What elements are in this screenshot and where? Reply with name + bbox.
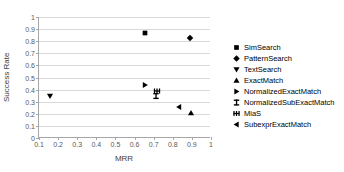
x-axis-tick-label: 0.6 <box>130 141 140 148</box>
legend-label: NormalizedExactMatch <box>244 87 321 96</box>
y-axis-tick-mark <box>36 65 39 66</box>
legend-marker-icon <box>232 98 241 107</box>
legend-marker-icon <box>232 87 241 96</box>
legend-label: PatternSearch <box>244 54 292 63</box>
x-axis-tick-mark <box>135 137 136 140</box>
y-axis-tick-mark <box>36 114 39 115</box>
y-axis-tick-label: 1 <box>31 14 35 21</box>
data-point <box>141 81 150 90</box>
x-axis-tick-mark <box>58 137 59 140</box>
y-axis-tick-label: 0.4 <box>25 86 35 93</box>
data-point <box>186 108 195 117</box>
y-axis-tick-mark <box>36 53 39 54</box>
legend-label: NormalizedSubExactMatch <box>244 98 334 107</box>
x-axis-tick-mark <box>173 137 174 140</box>
legend-item: TextSearch <box>232 64 342 75</box>
plot-area: 00.10.20.30.40.50.60.70.80.910.10.20.30.… <box>38 17 210 138</box>
gridline-horizontal <box>39 126 210 127</box>
y-axis-tick-label: 0.5 <box>25 74 35 81</box>
legend-item: ExactMatch <box>232 75 342 86</box>
chart-legend: SimSearchPatternSearchTextSearchExactMat… <box>232 42 342 130</box>
x-axis-tick-label: 0.1 <box>34 141 44 148</box>
legend-item: SubexprExactMatch <box>232 119 342 130</box>
x-axis-tick-label: 0.7 <box>149 141 159 148</box>
y-axis-tick-mark <box>36 90 39 91</box>
x-axis-tick-label: 0.9 <box>187 141 197 148</box>
gridline-horizontal <box>39 17 210 18</box>
legend-item: PatternSearch <box>232 53 342 64</box>
y-axis-tick-label: 0.6 <box>25 62 35 69</box>
y-axis-tick-label: 0.1 <box>25 122 35 129</box>
x-axis-tick-mark <box>39 137 40 140</box>
data-point <box>175 102 184 111</box>
legend-marker-icon <box>232 76 241 85</box>
x-axis-tick-label: 0.2 <box>53 141 63 148</box>
x-axis-tick-mark <box>154 137 155 140</box>
y-axis-tick-mark <box>36 41 39 42</box>
data-point <box>46 91 55 100</box>
gridline-horizontal <box>39 29 210 30</box>
x-axis-tick-mark <box>77 137 78 140</box>
y-axis-tick-mark <box>36 126 39 127</box>
y-axis-tick-mark <box>36 17 39 18</box>
legend-marker-icon <box>232 109 241 118</box>
gridline-horizontal <box>39 90 210 91</box>
x-axis-tick-label: 0.3 <box>72 141 82 148</box>
x-axis-tick-label: 0.8 <box>168 141 178 148</box>
gridline-horizontal <box>39 65 210 66</box>
y-axis-tick-label: 0.8 <box>25 38 35 45</box>
x-axis-tick-mark <box>211 137 212 140</box>
legend-item: NormalizedExactMatch <box>232 86 342 97</box>
gridline-horizontal <box>39 114 210 115</box>
y-axis-tick-mark <box>36 102 39 103</box>
legend-item: SimSearch <box>232 42 342 53</box>
x-axis-tick-label: 0.4 <box>91 141 101 148</box>
y-axis-tick-mark <box>36 29 39 30</box>
data-point <box>152 86 161 95</box>
legend-label: SubexprExactMatch <box>244 120 311 129</box>
data-point <box>185 34 194 43</box>
legend-label: MiaS <box>244 109 261 118</box>
gridline-horizontal <box>39 102 210 103</box>
x-axis-tick-mark <box>96 137 97 140</box>
x-axis-tick-mark <box>192 137 193 140</box>
scatter-chart: 00.10.20.30.40.50.60.70.80.910.10.20.30.… <box>0 0 344 172</box>
legend-marker-icon <box>232 65 241 74</box>
x-axis-tick-label: 0.5 <box>111 141 121 148</box>
y-axis-tick-mark <box>36 78 39 79</box>
y-axis-tick-label: 0.9 <box>25 26 35 33</box>
x-axis-tick-label: 1 <box>209 141 213 148</box>
data-point <box>141 28 150 37</box>
legend-item: MiaS <box>232 108 342 119</box>
legend-item: NormalizedSubExactMatch <box>232 97 342 108</box>
y-axis-title: Success Rate <box>2 47 11 107</box>
legend-label: TextSearch <box>244 65 282 74</box>
legend-marker-icon <box>232 120 241 129</box>
legend-marker-icon <box>232 54 241 63</box>
gridline-horizontal <box>39 41 210 42</box>
x-axis-tick-mark <box>115 137 116 140</box>
y-axis-tick-label: 0.7 <box>25 50 35 57</box>
gridline-horizontal <box>39 53 210 54</box>
legend-marker-icon <box>232 43 241 52</box>
y-axis-tick-label: 0.2 <box>25 110 35 117</box>
legend-label: SimSearch <box>244 43 281 52</box>
legend-label: ExactMatch <box>244 76 283 85</box>
y-axis-tick-label: 0.3 <box>25 98 35 105</box>
gridline-horizontal <box>39 78 210 79</box>
x-axis-title: MRR <box>38 154 210 163</box>
